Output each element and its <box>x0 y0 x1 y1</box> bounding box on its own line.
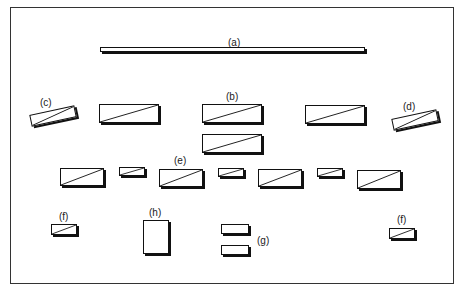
shape-f-right <box>389 228 415 239</box>
shape-h-tall <box>143 220 169 254</box>
label-h: (h) <box>149 208 161 218</box>
shape-e-4 <box>218 168 244 177</box>
diagonal-line-icon <box>318 169 342 176</box>
shape-g-top <box>221 224 249 234</box>
shape-e-7 <box>357 170 401 189</box>
label-e: (e) <box>174 156 186 166</box>
shape-b-left <box>99 104 159 123</box>
diagonal-line-icon <box>306 106 364 123</box>
diagonal-line-icon <box>61 169 103 185</box>
diagonal-line-icon <box>120 168 144 175</box>
shape-f-left <box>51 224 77 235</box>
label-g: (g) <box>257 236 269 246</box>
label-f-right: (f) <box>397 215 406 225</box>
diagonal-line-icon <box>390 229 414 238</box>
label-c: (c) <box>40 98 52 108</box>
shape-e-2 <box>119 167 145 176</box>
diagonal-line-icon <box>52 225 76 234</box>
shape-e-6 <box>317 168 343 177</box>
diagonal-line-icon <box>358 171 400 188</box>
shape-b-center-lower <box>202 134 262 153</box>
diagonal-line-icon <box>160 170 202 186</box>
diagonal-line-icon <box>100 105 158 122</box>
diagonal-line-icon <box>203 105 261 122</box>
label-d: (d) <box>403 102 415 112</box>
shape-b-center <box>202 104 262 123</box>
diagonal-line-icon <box>203 135 261 152</box>
diagonal-line-icon <box>259 170 301 186</box>
label-b: (b) <box>226 92 238 102</box>
shape-e-1 <box>60 168 104 186</box>
diagonal-line-icon <box>219 169 243 176</box>
shape-g-bottom <box>221 245 249 255</box>
label-f-left: (f) <box>59 212 68 222</box>
shape-b-right <box>305 105 365 124</box>
shape-a-bar <box>100 47 365 52</box>
shape-e-3 <box>159 169 203 187</box>
shape-e-5 <box>258 169 302 187</box>
